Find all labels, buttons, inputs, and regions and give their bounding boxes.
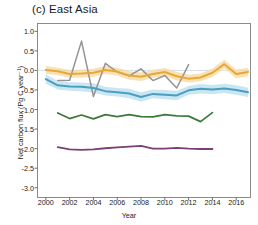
x-tick-label: 2004	[85, 198, 101, 207]
x-tick-label: 2006	[109, 198, 125, 207]
y-tick-label: 0.5	[10, 46, 34, 55]
x-tick-label: 2010	[157, 198, 173, 207]
plot-area	[0, 0, 258, 225]
x-tick-label: 2008	[133, 198, 149, 207]
y-tick-label: -2.5	[10, 164, 34, 173]
x-tick-label: 2016	[228, 198, 244, 207]
chart-title: (c) East Asia	[32, 3, 98, 15]
chart-figure: (c) East Asia Net carbon flux (Pg C year…	[0, 0, 258, 225]
y-tick-label: 1.0	[10, 27, 34, 36]
x-tick-label: 2002	[62, 198, 78, 207]
x-axis-label: Year	[0, 211, 258, 220]
y-axis-tick-labels: 1.00.50.0-0.5-1.0-1.5-2.0-2.5-3.0	[6, 0, 34, 225]
x-axis-tick-labels: 200020022004200620082010201220142016	[0, 198, 258, 212]
y-tick-label: -1.0	[10, 105, 34, 114]
plot-frame	[38, 24, 251, 198]
y-tick-label: -1.5	[10, 125, 34, 134]
y-tick-label: 0.0	[10, 66, 34, 75]
x-tick-label: 2014	[204, 198, 220, 207]
x-tick-label: 2000	[38, 198, 54, 207]
y-tick-label: -0.5	[10, 85, 34, 94]
x-tick-label: 2012	[181, 198, 197, 207]
y-tick-label: -3.0	[10, 183, 34, 192]
y-tick-label: -2.0	[10, 144, 34, 153]
